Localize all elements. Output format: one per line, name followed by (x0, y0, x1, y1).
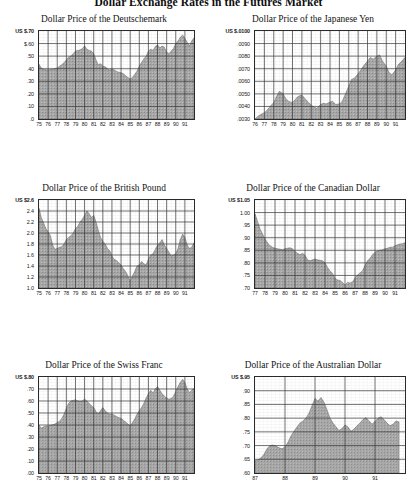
x-axis-tick-label: 89 (164, 290, 170, 296)
x-axis-tick-label: 87 (355, 121, 361, 127)
y-axis-tick-label: .0070 (214, 66, 250, 72)
plot-svg-japanese-yen (255, 31, 405, 119)
y-axis-tick-label: .40 (0, 422, 34, 428)
x-axis-tick-label: 89 (312, 475, 318, 481)
x-axis-tick-label: 81 (299, 121, 305, 127)
y-axis-tick-label: US $.80 (0, 374, 34, 380)
x-axis-tick-label: 78 (262, 290, 268, 296)
x-axis-tick-label: 88 (362, 290, 368, 296)
x-axis-tick-label: 76 (252, 121, 258, 127)
y-axis-tick-label: .50 (0, 410, 34, 416)
x-axis-tick-label: 80 (82, 475, 88, 481)
x-axis-tick-label: 76 (45, 290, 51, 296)
x-axis-tick-label: 87 (352, 290, 358, 296)
figure-title: Dollar Exchange Rates in the Futures Mar… (0, 0, 417, 8)
x-axis-tick-label: 91 (182, 475, 188, 481)
x-axis-tick-label: 85 (127, 121, 133, 127)
x-axis-tick-label: 75 (36, 121, 42, 127)
chart-panel-canadian-dollar: Dollar Price of the Canadian Dollar US $… (209, 183, 417, 309)
x-axis-tick-label: 81 (292, 290, 298, 296)
x-axis-tick-label: 82 (302, 290, 308, 296)
x-axis-tick-label: 83 (109, 475, 115, 481)
x-axis-tick-label: 88 (365, 121, 371, 127)
y-axis-tick-label: US $2.6 (0, 197, 34, 203)
x-axis-tick-label: 83 (109, 121, 115, 127)
x-axis-tick-label: 86 (342, 290, 348, 296)
x-axis-tick-label: 77 (54, 475, 60, 481)
y-axis-tick-label: 2.2 (0, 219, 34, 225)
x-axis-tick-label: 79 (73, 121, 79, 127)
y-axis-tick-label: 1.4 (0, 263, 34, 269)
plot-svg-british-pound (39, 200, 194, 288)
x-axis-tick-label: 86 (136, 475, 142, 481)
x-axis-tick-label: 78 (64, 475, 70, 481)
y-axis-tick-label: 1.8 (0, 241, 34, 247)
x-axis-tick-label: 86 (136, 121, 142, 127)
y-axis-tick-label: $.60 (0, 41, 34, 47)
chart-title-canadian-dollar: Dollar Price of the Canadian Dollar (209, 183, 417, 193)
plot-frame-deutschemark (38, 30, 195, 120)
x-axis-tick-label: 86 (136, 290, 142, 296)
plot-svg-deutschemark (39, 31, 194, 119)
x-axis-tick-label: 79 (73, 475, 79, 481)
y-axis-tick-label: .20 (0, 91, 34, 97)
x-axis-tick-label: 77 (252, 290, 258, 296)
x-axis-tick-label: 79 (73, 290, 79, 296)
chart-title-japanese-yen: Dollar Price of the Japanese Yen (209, 14, 417, 24)
x-axis-tick-label: 85 (127, 290, 133, 296)
y-axis-tick-label: .10 (0, 103, 34, 109)
chart-title-swiss-franc: Dollar Price of the Swiss Franc (0, 360, 208, 370)
x-axis-tick-label: 84 (118, 475, 124, 481)
y-axis-tick-label: .90 (214, 388, 250, 394)
series-area-swiss-franc (39, 379, 194, 473)
y-axis-tick-label: .00 (0, 470, 34, 476)
y-axis-tick-label: .0040 (214, 103, 250, 109)
x-axis-tick-label: 78 (64, 290, 70, 296)
y-axis-tick-label: US $.0100 (214, 28, 250, 34)
chart-panel-australian-dollar: Dollar Price of the Australian Dollar US… (209, 360, 417, 494)
plot-svg-australian-dollar (255, 377, 405, 473)
x-axis-tick-label: 88 (282, 475, 288, 481)
x-axis-tick-label: 90 (382, 290, 388, 296)
x-axis-tick-label: 85 (332, 290, 338, 296)
x-axis-tick-label: 84 (322, 290, 328, 296)
y-axis-tick-label: .20 (0, 446, 34, 452)
x-axis-tick-label: 80 (82, 121, 88, 127)
x-axis-tick-label: 84 (118, 121, 124, 127)
x-axis-tick-label: 90 (383, 121, 389, 127)
plot-area-swiss-franc: US $.80.70.60.50.40.30.20.10.00757677787… (38, 376, 195, 474)
x-axis-tick-label: 80 (82, 290, 88, 296)
x-axis-tick-label: 85 (127, 475, 133, 481)
y-axis-tick-label: .0 (0, 116, 34, 122)
x-axis-tick-label: 87 (146, 290, 152, 296)
y-axis-tick-label: .0050 (214, 91, 250, 97)
x-axis-tick-label: 87 (146, 475, 152, 481)
chart-title-australian-dollar: Dollar Price of the Australian Dollar (209, 360, 417, 370)
y-axis-tick-label: .30 (0, 434, 34, 440)
y-axis-tick-label: US $.95 (214, 374, 250, 380)
x-axis-tick-label: 80 (290, 121, 296, 127)
x-axis-tick-label: 91 (182, 290, 188, 296)
y-axis-tick-label: .90 (214, 235, 250, 241)
y-axis-tick-label: .75 (214, 429, 250, 435)
y-axis-tick-label: .50 (0, 53, 34, 59)
y-axis-tick-label: .60 (214, 470, 250, 476)
x-axis-tick-label: 80 (282, 290, 288, 296)
x-axis-tick-label: 87 (252, 475, 258, 481)
plot-frame-australian-dollar (254, 376, 406, 474)
x-axis-tick-label: 88 (155, 290, 161, 296)
x-axis-tick-label: 75 (36, 475, 42, 481)
y-axis-tick-label: .80 (214, 415, 250, 421)
plot-frame-canadian-dollar (254, 199, 406, 289)
y-axis-tick-label: .75 (214, 272, 250, 278)
chart-title-deutschemark: Dollar Price of the Deutschemark (0, 14, 208, 24)
plot-area-canadian-dollar: US $1.051.00.95.90.85.80.75.707778798081… (254, 199, 406, 289)
chart-title-british-pound: Dollar Price of the British Pound (0, 183, 208, 193)
figure-page: Dollar Exchange Rates in the Futures Mar… (0, 0, 417, 494)
x-axis-tick-label: 82 (308, 121, 314, 127)
x-axis-tick-label: 76 (45, 121, 51, 127)
x-axis-tick-label: 81 (91, 475, 97, 481)
plot-area-deutschemark: US $.70$.60.50.40.30.20.10.0757677787980… (38, 30, 195, 120)
x-axis-tick-label: 78 (64, 121, 70, 127)
y-axis-tick-label: 1.2 (0, 274, 34, 280)
